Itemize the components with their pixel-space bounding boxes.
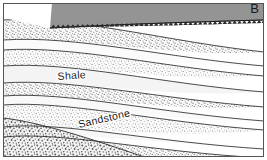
cross-section-canvas: Shale Sandstone: [0, 0, 267, 160]
panel-letter-label: B: [250, 2, 259, 16]
strata-group: Shale Sandstone: [0, 0, 267, 160]
shale-label: Shale: [57, 68, 86, 82]
geologic-cross-section-figure: Shale Sandstone B: [0, 0, 267, 160]
